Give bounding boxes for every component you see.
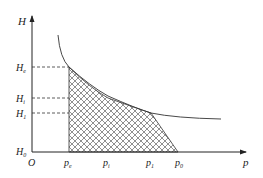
x-tick-p0: p0 xyxy=(174,157,183,169)
y-axis-label: H xyxy=(17,15,27,27)
y-tick-h0: H0 xyxy=(15,146,26,158)
y-tick-h1: H1 xyxy=(15,108,26,120)
x-tick-pi: pi xyxy=(102,157,110,169)
y-tick-he: He xyxy=(15,62,26,74)
hatched-area xyxy=(69,67,178,152)
h-p-diagram: H p O He Hi H1 H0 pe pi p1 p0 xyxy=(0,0,263,178)
origin-label: O xyxy=(28,157,35,168)
y-tick-hi: Hi xyxy=(15,93,25,105)
x-tick-pe: pe xyxy=(63,157,72,169)
x-tick-p1: p1 xyxy=(145,157,154,169)
x-axis-label: p xyxy=(242,156,249,168)
